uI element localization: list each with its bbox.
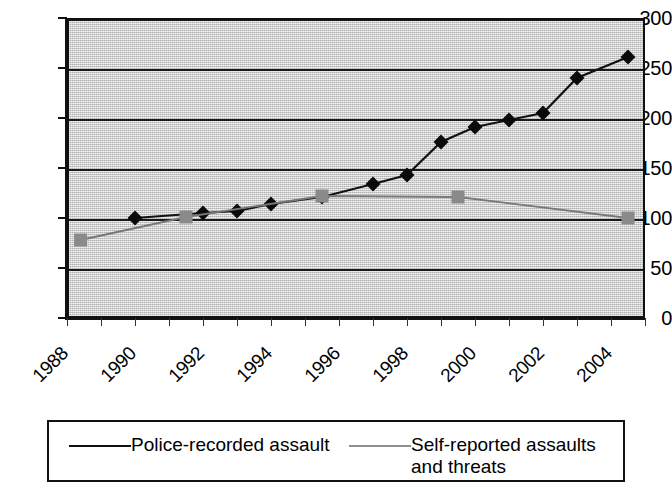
line-chart: 050100150200250300 198819901992199419961… [0,0,672,491]
x-tick-label: 1992 [165,343,207,385]
legend-label: Self-reported assaults and threats [411,434,623,478]
series-line [81,196,628,240]
x-tick-mark [407,318,408,326]
x-tick-mark [543,318,544,326]
x-tick-label: 2004 [573,343,615,385]
x-tick-mark [101,318,102,326]
x-tick-mark [339,318,340,326]
data-point-diamond [230,204,245,219]
legend: Police-recorded assault Self-reported as… [47,420,625,482]
square-marker-icon [349,436,411,456]
x-tick-label: 2002 [505,343,547,385]
x-tick-label: 1998 [369,343,411,385]
series-layer [67,18,645,318]
x-axis-line [65,318,645,320]
x-tick-mark [271,318,272,326]
data-point-diamond [502,113,517,128]
x-tick-mark [203,318,204,326]
x-tick-label: 1990 [97,343,139,385]
series-police-recorded-assault [128,50,636,226]
legend-entry-self-reported-assaults-and-threats: Self-reported assaults and threats [349,434,623,478]
x-tick-mark [169,318,170,326]
x-tick-mark [237,318,238,326]
data-point-square [452,191,465,204]
x-tick-label: 1994 [233,343,275,385]
series-line [135,57,628,218]
data-point-diamond [366,177,381,192]
x-tick-mark [67,318,68,326]
data-point-diamond [468,120,483,135]
data-point-square [316,190,329,203]
x-tick-label: 1988 [29,343,71,385]
series-self-reported-assaults-and-threats [74,190,634,247]
data-point-square [622,212,635,225]
x-tick-mark [441,318,442,326]
x-tick-label: 1996 [301,343,343,385]
data-point-square [74,234,87,247]
data-point-diamond [621,50,636,65]
x-tick-mark [475,318,476,326]
x-tick-mark [373,318,374,326]
x-tick-mark [509,318,510,326]
x-tick-mark [577,318,578,326]
data-point-square [180,211,193,224]
x-tick-mark [135,318,136,326]
x-tick-mark [305,318,306,326]
x-tick-mark [645,318,646,326]
diamond-marker-icon [69,436,131,456]
legend-label: Police-recorded assault [131,434,330,456]
legend-entry-police-recorded-assault: Police-recorded assault [69,434,330,456]
data-point-diamond [128,211,143,226]
x-tick-mark [611,318,612,326]
x-tick-label: 2000 [437,343,479,385]
